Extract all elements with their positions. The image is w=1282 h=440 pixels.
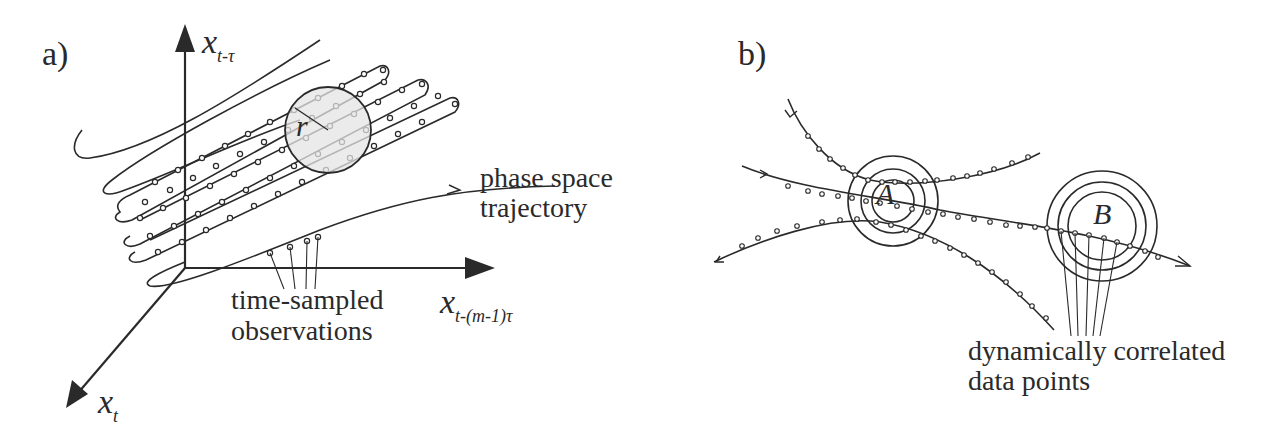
- sampled-trajectory: [116, 66, 459, 262]
- axis-base: x: [440, 283, 455, 320]
- axis-label-vertical: xt-τ: [202, 24, 235, 66]
- diagonal-axis: [72, 268, 185, 400]
- axes: [66, 24, 495, 408]
- phase-space-label-line1: phase space: [480, 163, 613, 192]
- time-sampled-label-line2: observations: [231, 316, 373, 345]
- observation-leaders: [270, 237, 318, 289]
- trajectory-middle: [742, 166, 1190, 266]
- trajectory-outer-loop: [74, 40, 320, 158]
- arrow-up-icon: [175, 24, 195, 52]
- figure: a) xt-τ xt-(m-1)τ xt r phase space traje…: [0, 0, 1282, 440]
- panel-a-label: a): [42, 36, 68, 72]
- radius-label: r: [296, 110, 308, 142]
- panel-b-label: b): [738, 36, 766, 72]
- time-sampled-label-line1: time-sampled: [231, 285, 383, 314]
- trajectory-upper: [788, 99, 1040, 183]
- axis-base: x: [202, 23, 217, 60]
- observation-points: [267, 234, 320, 255]
- correlated-label-line2: data points: [968, 366, 1090, 395]
- axis-base: x: [98, 383, 113, 420]
- neighborhood-a-label: A: [876, 178, 894, 210]
- correlated-label-line1: dynamically correlated: [968, 336, 1225, 365]
- axis-label-horizontal: xt-(m-1)τ: [440, 284, 513, 326]
- correlated-leaders: [1061, 231, 1117, 336]
- arrow-right-icon: [465, 257, 495, 279]
- axis-subscript: t-τ: [217, 46, 234, 66]
- phase-space-label-line2: trajectory: [480, 193, 587, 222]
- axis-subscript: t-(m-1)τ: [455, 306, 512, 326]
- axis-subscript: t: [113, 406, 118, 426]
- axis-label-diagonal: xt: [98, 384, 118, 426]
- panel-b: [714, 99, 1190, 336]
- neighborhood-b-label: B: [1093, 198, 1111, 230]
- trajectory-lower: [714, 221, 1054, 330]
